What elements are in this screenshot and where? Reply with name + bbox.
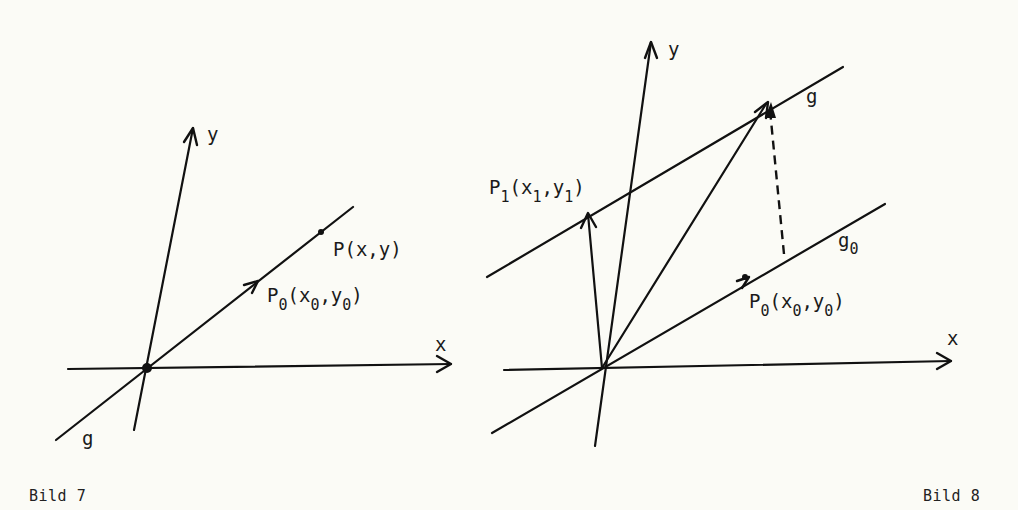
figure-bild8: y x g g0 P1(x1,y1) P0(x0,y0)	[487, 38, 958, 446]
caption-bild7: Bild 7	[29, 487, 86, 505]
line-g0-label: g0	[838, 229, 858, 258]
diagram-canvas: y x g P(x,y) P0(x0,y0) y x g g0 P1(x1,y1…	[0, 0, 1018, 510]
origin-point	[142, 363, 152, 373]
y-axis	[595, 42, 651, 446]
point-p0-label: P0(x0,y0)	[267, 284, 363, 314]
point-p	[318, 229, 324, 235]
point-p-label: P(x,y)	[333, 238, 402, 260]
x-axis	[504, 361, 951, 370]
vector-p1	[588, 214, 602, 368]
point-p0-label: P0(x0,y0)	[749, 290, 845, 320]
vector-to-g	[602, 104, 766, 368]
point-p1-label: P1(x1,y1)	[489, 176, 585, 206]
y-axis-label: y	[207, 123, 218, 145]
dashed-translation-vector	[770, 110, 784, 254]
y-axis	[134, 128, 193, 430]
figure-bild7: y x g P(x,y) P0(x0,y0)	[56, 123, 451, 449]
x-axis	[68, 364, 451, 369]
line-g-label: g	[806, 85, 817, 107]
x-axis-label: x	[947, 327, 958, 349]
line-g-label: g	[82, 427, 93, 449]
point-p0	[742, 274, 748, 280]
line-g	[56, 207, 353, 440]
y-axis-label: y	[668, 38, 679, 60]
x-axis-label: x	[435, 333, 446, 355]
line-g	[487, 67, 843, 277]
caption-bild8: Bild 8	[923, 487, 980, 505]
